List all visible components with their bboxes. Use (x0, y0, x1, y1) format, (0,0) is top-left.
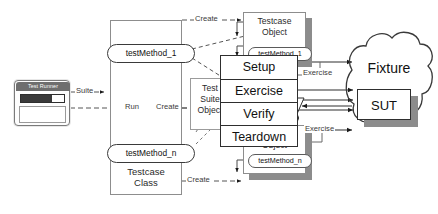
test-runner-titlebar: Test Runner (16, 82, 70, 91)
sut-label: SUT (358, 90, 410, 119)
test-runner-window[interactable]: Test Runner (14, 80, 70, 126)
test-method-1[interactable]: testMethod_1 (107, 44, 195, 63)
edge-label-exercise-bottom: Exercise (304, 124, 335, 133)
edge-label-exercise-top: Exercise (302, 68, 333, 77)
phase-setup[interactable]: Setup (221, 56, 297, 79)
edge-label-suite: Suite (75, 86, 94, 95)
test-method-n[interactable]: testMethod_n (107, 144, 195, 163)
phase-verify[interactable]: Verify (221, 102, 297, 125)
edge-label-run: Run (124, 102, 140, 111)
testcase-class-label-line1: Testcase (111, 166, 181, 177)
test-runner-results-panel[interactable] (19, 106, 66, 123)
testcase-object-1-line1: Testcase (244, 16, 305, 27)
edge-label-create-mid: Create (155, 102, 180, 111)
sut-box: SUT (357, 89, 411, 120)
edge-exercise-to-sut (298, 90, 353, 110)
test-runner-progress-fill (21, 95, 52, 102)
four-phase-test-box: Setup Exercise Verify Teardown (220, 55, 298, 147)
testcase-object-1-line2: Object (244, 27, 305, 38)
testcase-class-label-line2: Class (111, 177, 181, 188)
testcase-object-1-label: Testcase Object (244, 16, 305, 38)
phase-teardown[interactable]: Teardown (221, 125, 297, 148)
testcase-object-n-method[interactable]: testMethod_n (248, 154, 312, 168)
test-runner-progress-bar (20, 94, 65, 103)
diagram-canvas: Test Runner Testcase Class testMethod_1 … (0, 0, 438, 214)
edge-label-create-bottom: Create (186, 175, 211, 184)
edge-label-create-top: Create (194, 14, 219, 23)
testcase-class-label: Testcase Class (111, 166, 181, 188)
fixture-label: Fixture (357, 60, 421, 76)
phase-exercise[interactable]: Exercise (221, 79, 297, 102)
